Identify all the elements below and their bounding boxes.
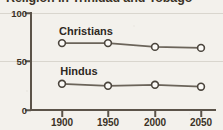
series-label-hindus: Hindus bbox=[60, 65, 97, 77]
line-christians bbox=[62, 43, 201, 48]
data-point bbox=[105, 82, 112, 89]
line-hindus bbox=[62, 84, 201, 87]
chart-container: Religion in Trinidad and Tobago 100 50 0… bbox=[0, 0, 223, 130]
series-plot bbox=[0, 0, 223, 130]
data-point bbox=[59, 80, 66, 87]
data-point bbox=[198, 83, 205, 90]
data-point bbox=[198, 45, 205, 52]
series-label-christians: Christians bbox=[59, 25, 113, 37]
data-point bbox=[105, 40, 112, 47]
data-point bbox=[59, 40, 66, 47]
data-point bbox=[152, 81, 159, 88]
data-point bbox=[152, 44, 159, 51]
